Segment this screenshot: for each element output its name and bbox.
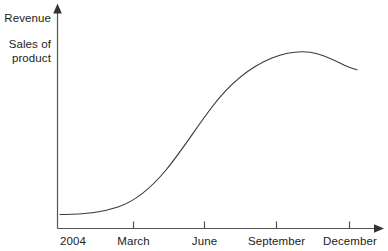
x-axis-label-september: September: [238, 234, 315, 248]
y-axis-title-sales-line1: Sales of: [9, 38, 51, 50]
x-axis-label-march: March: [103, 234, 164, 248]
chart-figure: Revenue Sales ofproduct 2004 March June …: [0, 0, 388, 251]
y-axis-title-sales-line2: product: [12, 52, 51, 64]
y-axis-title-sales: Sales ofproduct: [0, 38, 51, 65]
x-axis-label-december: December: [313, 234, 387, 248]
x-axis-label-2004: 2004: [60, 234, 108, 248]
product-life-cycle-plot: [0, 0, 388, 251]
figure-background: [0, 0, 388, 251]
y-axis-title-revenue: Revenue: [0, 12, 51, 25]
x-axis-label-june: June: [177, 234, 232, 248]
